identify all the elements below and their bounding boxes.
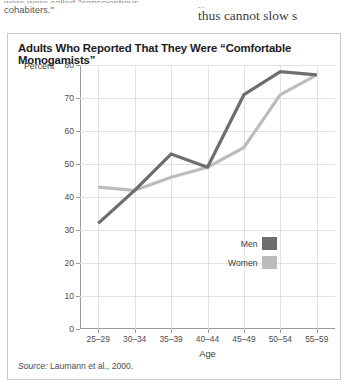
y-tick-label-40: 40 — [64, 192, 74, 202]
body-text-right-visible: thus cannot slow s — [198, 8, 297, 23]
body-text-left-column: were were called "conscientious cohabite… — [4, 0, 174, 16]
x-tick-6 — [317, 329, 318, 333]
x-tick-2 — [171, 329, 172, 333]
x-tick-0 — [98, 329, 99, 333]
x-tick-4 — [244, 329, 245, 333]
y-tick-0 — [76, 329, 80, 330]
y-tick-label-20: 20 — [64, 258, 74, 268]
chart-series-lines — [80, 65, 335, 329]
x-tick-5 — [280, 329, 281, 333]
legend-label-women: Women — [228, 258, 257, 268]
x-tick-label-3: 40–44 — [196, 334, 219, 344]
legend-item-men: Men — [228, 237, 277, 250]
x-tick-label-1: 30–34 — [123, 334, 146, 344]
x-axis-title: Age — [199, 348, 216, 359]
series-line-women — [98, 75, 317, 190]
legend-swatch-women — [262, 256, 277, 269]
chart-legend: Men Women — [228, 237, 277, 275]
y-tick-label-80: 80 — [64, 60, 74, 70]
figure-source: Source: Laumann et al., 2000. — [18, 361, 133, 371]
x-tick-label-0: 25–29 — [87, 334, 110, 344]
x-tick-label-4: 45–49 — [232, 334, 255, 344]
y-tick-label-10: 10 — [64, 291, 74, 301]
textbook-page: were were called "conscientious cohabite… — [0, 0, 348, 385]
body-text-left-clipped: were were called "conscientious — [4, 0, 174, 3]
y-tick-label-50: 50 — [64, 159, 74, 169]
y-axis-title: Percent — [24, 61, 54, 71]
y-tick-label-0: 0 — [69, 324, 74, 334]
x-tick-label-5: 50–54 — [269, 334, 292, 344]
body-text-right-column: y thus cannot slow s — [198, 2, 348, 23]
legend-item-women: Women — [228, 256, 277, 269]
x-tick-label-2: 35–39 — [159, 334, 182, 344]
chart-plot-area: 01020304050607080 25–2930–3435–3940–4445… — [80, 65, 335, 329]
y-tick-label-30: 30 — [64, 225, 74, 235]
y-tick-label-60: 60 — [64, 126, 74, 136]
x-tick-label-6: 55–59 — [305, 334, 328, 344]
figure-source-detail: Laumann et al., 2000. — [48, 361, 134, 371]
body-text-left-visible: cohabiters." — [4, 4, 54, 15]
figure-source-label: Source: — [18, 361, 48, 371]
legend-swatch-men — [262, 237, 277, 250]
figure-container: Adults Who Reported That They Were “Comf… — [7, 33, 341, 380]
legend-label-men: Men — [241, 239, 258, 249]
x-tick-3 — [208, 329, 209, 333]
x-tick-1 — [135, 329, 136, 333]
y-tick-label-70: 70 — [64, 93, 74, 103]
